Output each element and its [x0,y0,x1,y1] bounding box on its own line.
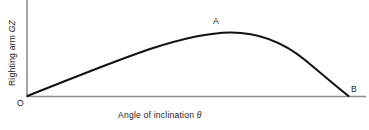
x-axis-title-symbol: θ [197,110,202,120]
x-axis-title: Angle of inclination θ [118,110,202,120]
y-axis-title-symbol: GZ [7,20,17,32]
y-axis-title-text: Righting arm [7,32,17,86]
point-a-label: A [213,16,219,26]
righting-arm-curve-figure: Righting arm GZ Angle of inclination θ O… [0,0,369,130]
point-b-label: B [351,84,357,94]
x-axis-title-text: Angle of inclination [118,110,197,120]
origin-label: O [17,98,24,108]
y-axis-title: Righting arm GZ [7,5,17,101]
righting-arm-curve [28,33,349,97]
